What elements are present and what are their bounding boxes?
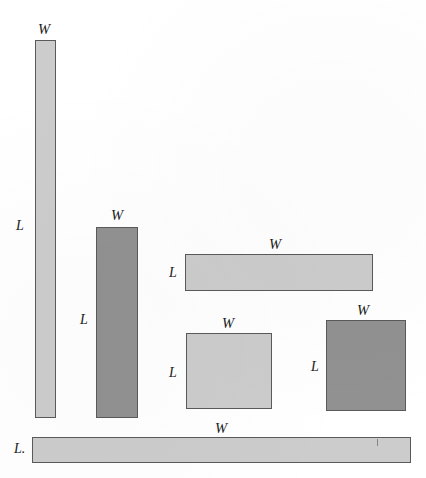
rectangle-3-width-label: W bbox=[269, 237, 281, 252]
rectangle-1-length-label: L bbox=[16, 219, 24, 233]
rectangle-2-length-label: L bbox=[80, 313, 88, 327]
rectangle-3 bbox=[185, 254, 373, 291]
rectangle-3-length-label: L bbox=[169, 266, 177, 280]
rectangle-6-length-label: L. bbox=[14, 442, 25, 456]
rectangle-6 bbox=[32, 437, 411, 463]
rectangle-4-length-label: L bbox=[169, 366, 177, 380]
rectangle-1 bbox=[35, 40, 56, 418]
rectangle-2 bbox=[96, 227, 138, 418]
rectangle-5-length-label: L bbox=[311, 360, 319, 374]
rectangle-6-width-label: W bbox=[215, 421, 227, 436]
rectangle-5 bbox=[326, 320, 406, 411]
rectangle-2-width-label: W bbox=[111, 208, 123, 223]
rectangle-5-width-label: W bbox=[357, 303, 369, 318]
rectangle-1-width-label: W bbox=[38, 22, 50, 37]
scan-tick-mark bbox=[377, 439, 378, 446]
rectangle-4-width-label: W bbox=[222, 316, 234, 331]
rectangle-4 bbox=[186, 333, 272, 409]
rectangles-figure: W L W L W L W L W L W L. bbox=[0, 0, 426, 478]
